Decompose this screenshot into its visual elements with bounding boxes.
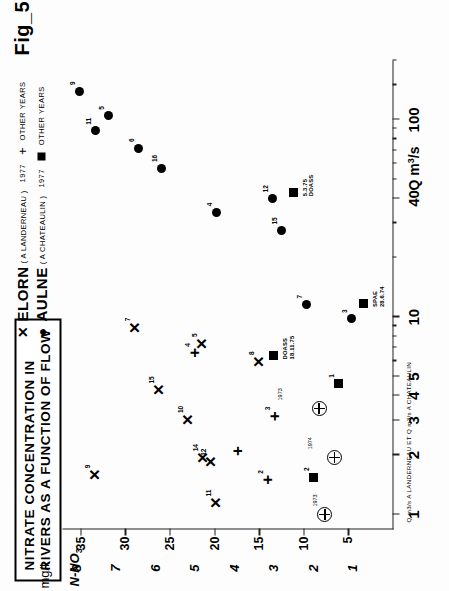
legend-year: 1977	[36, 169, 45, 187]
legend-other-years-label: OTHER YEARS	[36, 86, 45, 145]
y-axis-tick-label: 30	[117, 536, 131, 556]
legend-row-aulne: ● AULNE ( A CHATEAULIN ) 1977 OTHER YEAR…	[31, 81, 50, 339]
x-axis-sub-caption: Q m3/s A LANDERNEAU ET Q m3/s A CHATEAUL…	[404, 361, 411, 522]
data-point-label: 7	[123, 317, 130, 321]
data-point-label: 7	[295, 294, 302, 298]
data-point-o	[133, 143, 142, 152]
y-axis-tick-label: 15	[251, 536, 265, 556]
x-axis-caption-sup: 3	[405, 158, 415, 163]
x-axis-tick	[392, 118, 399, 119]
legend-row-elorn: ✕ ELORN ( A LANDERNEAU ) 1977 + OTHER YE…	[12, 81, 31, 339]
x-axis-minor-tick	[392, 221, 396, 222]
y-axis-tick	[169, 528, 170, 535]
data-point-o	[157, 163, 166, 172]
x-axis-minor-tick	[392, 162, 396, 163]
y-axis-tick	[124, 528, 125, 535]
square-marker-icon	[37, 152, 45, 160]
x-axis-tick-label: 100	[404, 107, 421, 132]
data-point-year-label: 1974	[306, 437, 312, 449]
data-point-s	[359, 298, 368, 307]
dot-marker-icon: ●	[33, 324, 49, 339]
data-point-label: 6	[127, 138, 134, 142]
data-point-o	[91, 126, 100, 135]
data-point-label: 5	[190, 333, 197, 337]
x-axis-tick-label: 4	[404, 391, 421, 399]
y-axis-secondary-tick-label: 1	[345, 564, 360, 584]
data-point-year-label: 1973	[311, 494, 317, 506]
plus-marker-icon: +	[18, 147, 26, 155]
x-axis-tick-label: 2	[404, 451, 421, 459]
data-point-label: 12	[261, 185, 268, 192]
y-axis-secondary-tick-label: 3	[266, 564, 281, 584]
legend-station: ( A CHATEAULIN )	[37, 195, 46, 264]
x-axis-minor-tick	[392, 178, 396, 179]
data-point-s	[269, 351, 278, 360]
y-axis-tick-label: 20	[207, 536, 221, 556]
data-point-s	[308, 472, 317, 481]
data-point-s	[333, 379, 342, 388]
data-point-o	[268, 193, 277, 202]
x-axis-tick-label: 3	[404, 416, 421, 424]
y-axis-secondary-tick-label: 6	[147, 564, 162, 584]
data-point-s	[289, 187, 298, 196]
figure-number: Fig_5	[10, 0, 33, 55]
data-point-x: ✕	[130, 320, 139, 333]
x-axis-tick-label: 5	[404, 372, 421, 380]
x-axis-minor-tick	[392, 137, 396, 138]
y-axis-tick-label: 5	[340, 536, 354, 556]
y-axis-secondary-tick-label: 8	[68, 564, 83, 584]
y-axis-tick	[347, 528, 348, 535]
data-point-circled-plus	[317, 507, 332, 522]
x-axis-minor-tick	[392, 346, 396, 347]
data-point-label: 2	[302, 467, 309, 471]
data-point-label: 9	[68, 81, 75, 85]
legend-year: 1977	[17, 164, 26, 182]
y-axis-secondary-tick-label: 4	[226, 564, 241, 584]
data-point-label: 11	[204, 489, 211, 496]
x-marker-icon: ✕	[14, 324, 30, 339]
data-point-label: 1	[327, 374, 334, 378]
y-axis-secondary-tick-label: 5	[187, 564, 202, 584]
x-axis-minor-tick	[392, 127, 396, 128]
legend-series-name: ELORN	[13, 266, 30, 321]
data-point-annotation: SPAE28.6.74	[371, 286, 384, 307]
figure-page: NITRATE CONCENTRATION IN RIVERS AS A FUN…	[0, 0, 449, 591]
y-axis-tick	[258, 528, 259, 535]
x-axis-tick	[392, 375, 399, 376]
data-point-label: 16	[150, 154, 157, 161]
data-point-o	[302, 300, 311, 309]
data-point-o	[212, 207, 221, 216]
x-axis-minor-tick	[392, 149, 396, 150]
y-axis-tick	[80, 528, 81, 535]
data-point-x: ✕	[154, 383, 163, 396]
data-point-o	[276, 226, 285, 235]
data-point-o	[74, 86, 83, 95]
data-point-label: 4	[205, 202, 212, 206]
y-axis-secondary-tick-label: 7	[108, 564, 123, 584]
data-point-annotation: DOASS18.11.75	[281, 335, 294, 359]
legend-station: ( A LANDERNEAU )	[18, 190, 27, 263]
data-point-label: 10	[176, 405, 183, 412]
data-point-label: 14	[191, 444, 198, 451]
x-axis-minor-tick	[392, 83, 396, 84]
y-axis-tick	[303, 528, 304, 535]
data-point-x: ✕	[182, 412, 191, 425]
x-axis-tick	[392, 513, 399, 514]
x-axis-tick-label: 10	[404, 308, 421, 325]
data-point-label: 9	[83, 464, 90, 468]
x-axis-minor-tick	[392, 256, 396, 257]
x-axis-caption-text: Q m	[406, 163, 422, 190]
x-axis-tick	[392, 315, 399, 316]
data-point-label: 11	[84, 117, 91, 124]
x-axis-minor-tick	[392, 324, 396, 325]
x-axis-tick	[392, 419, 399, 420]
data-point-label: 5	[97, 106, 104, 110]
data-point-label: 3	[263, 406, 270, 410]
x-axis-tick-label: 1	[404, 510, 421, 518]
data-point-label: 8	[247, 351, 254, 355]
x-axis-tick-label: 40	[404, 190, 421, 207]
data-point-plus: +	[232, 446, 241, 456]
x-axis-tick	[392, 453, 399, 454]
x-axis-tick	[392, 394, 399, 395]
data-point-o	[104, 111, 113, 120]
